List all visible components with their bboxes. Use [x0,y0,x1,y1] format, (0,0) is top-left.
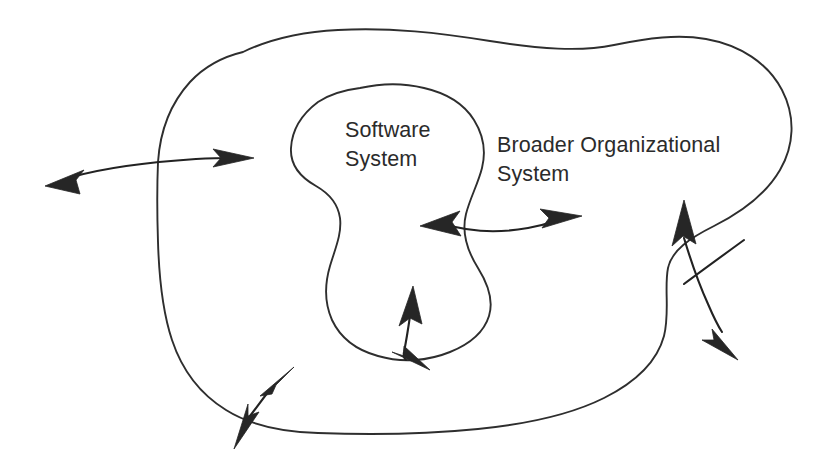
bottom-left-external-interaction-arrow-head-up-right [260,367,294,396]
bottom-left-external-interaction-arrow [234,367,294,449]
left-external-interaction-arrow [45,149,254,194]
right-external-interaction-arrow-head-down-right [702,329,738,360]
software-system-label: Software System [345,116,431,173]
bottom-center-internal-interaction-arrow-head-down [392,346,430,370]
left-external-interaction-arrow-head-left [45,170,84,194]
right-external-interaction-arrow [672,200,744,360]
center-internal-interaction-arrow-head-right [540,209,582,228]
center-internal-interaction-arrow-head-left [420,211,461,236]
broader-organizational-system-boundary [157,29,791,434]
systems-boundary-diagram: Software System Broader Organizational S… [0,0,832,471]
right-external-interaction-arrow-shaft [684,238,722,332]
broader-organizational-system-label: Broader Organizational System [497,131,720,188]
center-internal-interaction-arrow-shaft [444,220,558,231]
diagram-canvas [0,0,832,471]
bottom-center-internal-interaction-arrow-head-up [399,286,422,326]
right-external-interaction-arrow-shaft-upper [684,240,744,284]
bottom-center-internal-interaction-arrow [392,286,430,370]
center-internal-interaction-arrow [420,209,582,236]
left-external-interaction-arrow-shaft [72,158,236,177]
